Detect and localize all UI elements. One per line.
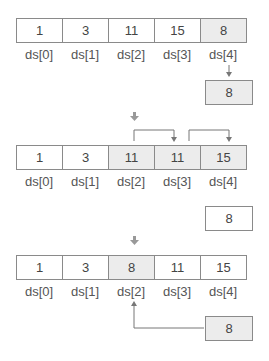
shift-arrow-icon — [134, 130, 177, 142]
step-arrow-icon — [130, 112, 139, 121]
arrow-down-icon — [226, 65, 232, 77]
insert-arrow-icon — [131, 301, 204, 328]
shift-arrow-icon — [189, 130, 232, 142]
step-arrow-icon — [130, 236, 139, 245]
arrows-overlay — [0, 0, 269, 361]
